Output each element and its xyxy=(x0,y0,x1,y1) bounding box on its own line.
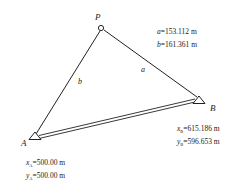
resection-diagram: P A B b a a=153.112 m b=161.361 m xB=615… xyxy=(0,0,242,190)
coord-ya-text: yA=500.00 m xyxy=(25,171,65,181)
coord-yb-text: yB=596.653 m xyxy=(176,137,220,147)
point-b-label: B xyxy=(210,103,216,113)
coord-xa-text: xA=500.00 m xyxy=(25,158,65,168)
distance-b-text: b=161.361 m xyxy=(157,40,197,49)
side-a-label: a xyxy=(141,65,145,74)
point-a-label: A xyxy=(20,138,27,148)
point-p-circle-icon xyxy=(98,25,103,30)
distance-a-text: a=153.112 m xyxy=(157,27,197,36)
coord-xb-text: xB=615.186 m xyxy=(176,124,220,134)
baseline-ab xyxy=(39,99,195,139)
side-b-label: b xyxy=(78,77,82,86)
side-b-line xyxy=(36,31,100,134)
point-b-triangle-icon xyxy=(193,96,205,104)
point-p-label: P xyxy=(94,12,101,22)
